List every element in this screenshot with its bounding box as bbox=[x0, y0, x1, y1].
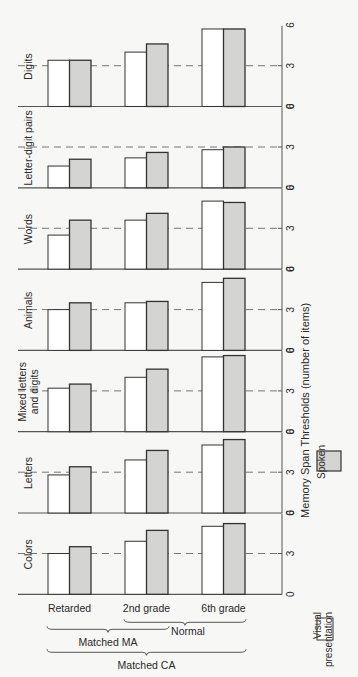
bar-spoken bbox=[70, 384, 92, 432]
bar-spoken bbox=[70, 547, 92, 595]
bar-visual bbox=[202, 445, 224, 513]
legend-label-visual: presentation bbox=[323, 612, 334, 667]
bar-visual bbox=[125, 52, 147, 106]
panel-label: Words bbox=[22, 214, 34, 244]
bar-spoken bbox=[224, 278, 246, 350]
bar-spoken bbox=[224, 524, 246, 595]
bar-visual bbox=[202, 357, 224, 432]
tick-label: 6 bbox=[285, 509, 296, 515]
bar-spoken bbox=[147, 44, 169, 107]
panel-digits: 036Digits bbox=[18, 22, 296, 110]
panel-mixed-letters-and-digits: 036Mixed lettersand digits bbox=[16, 347, 296, 435]
bar-spoken bbox=[70, 60, 92, 106]
tick-label: 6 bbox=[285, 428, 296, 434]
bar-spoken bbox=[70, 303, 92, 351]
bar-visual bbox=[48, 310, 70, 351]
tick-label: 3 bbox=[285, 62, 296, 68]
bar-visual bbox=[48, 166, 70, 188]
memory-span-chart: 036Digits036Letter-digit pairs036Words03… bbox=[0, 0, 358, 677]
bar-spoken bbox=[70, 159, 92, 188]
y-axis-label: Memory Span Thresholds (number of items) bbox=[299, 303, 311, 518]
bar-visual bbox=[202, 526, 224, 594]
panel-label: Colors bbox=[22, 539, 34, 569]
group-label: Normal bbox=[171, 625, 205, 637]
bar-spoken bbox=[224, 440, 246, 513]
bar-visual bbox=[48, 388, 70, 432]
panel-label: Animals bbox=[22, 292, 34, 329]
panel-label: Letter-digit pairs bbox=[22, 110, 34, 185]
panel-letters: 036Letters bbox=[18, 428, 296, 516]
tick-label: 3 bbox=[285, 469, 296, 475]
bracket-matched-ca bbox=[47, 649, 246, 655]
tick-label: 3 bbox=[285, 225, 296, 231]
tick-label: 6 bbox=[285, 22, 296, 28]
bar-visual bbox=[202, 29, 224, 107]
bar-spoken bbox=[147, 530, 169, 594]
tick-label: 6 bbox=[285, 184, 296, 190]
bar-spoken bbox=[147, 369, 169, 432]
bar-spoken bbox=[147, 213, 169, 269]
tick-label: 0 bbox=[285, 591, 296, 597]
panel-words: 036Words bbox=[18, 184, 296, 272]
bar-visual bbox=[202, 282, 224, 350]
panel-label: and digits bbox=[28, 369, 40, 414]
tick-label: 6 bbox=[285, 266, 296, 272]
panel-label: Digits bbox=[22, 53, 34, 79]
legend-label-spoken: Spoken bbox=[316, 445, 327, 479]
bar-spoken bbox=[224, 356, 246, 432]
category-label: 6th grade bbox=[201, 602, 246, 614]
panel-letter-digit-pairs: 036Letter-digit pairs bbox=[18, 103, 296, 191]
category-label: 2nd grade bbox=[123, 602, 170, 614]
tick-label: 3 bbox=[285, 388, 296, 394]
panel-animals: 036Animals bbox=[18, 266, 296, 354]
bar-spoken bbox=[224, 29, 246, 107]
bar-visual bbox=[202, 150, 224, 188]
bar-visual bbox=[48, 60, 70, 106]
tick-label: 3 bbox=[285, 306, 296, 312]
tick-label: 3 bbox=[285, 144, 296, 150]
bar-visual bbox=[48, 475, 70, 513]
bar-visual bbox=[125, 303, 147, 351]
panel-label: Letters bbox=[22, 457, 34, 489]
group-label: Matched MA bbox=[79, 636, 138, 648]
category-label: Retarded bbox=[48, 602, 91, 614]
bar-spoken bbox=[224, 202, 246, 269]
bar-visual bbox=[202, 201, 224, 269]
tick-label: 6 bbox=[285, 347, 296, 353]
bar-spoken bbox=[224, 147, 246, 188]
bar-spoken bbox=[147, 450, 169, 513]
bar-visual bbox=[125, 541, 147, 594]
bar-spoken bbox=[70, 467, 92, 513]
bar-visual bbox=[125, 460, 147, 513]
bar-visual bbox=[125, 220, 147, 269]
bar-visual bbox=[48, 554, 70, 595]
tick-label: 3 bbox=[285, 550, 296, 556]
legend-label-visual: Visual bbox=[312, 612, 323, 639]
tick-label: 6 bbox=[285, 103, 296, 109]
panel-colors: 036Colors bbox=[18, 509, 296, 597]
bar-spoken bbox=[70, 220, 92, 269]
bar-spoken bbox=[147, 152, 169, 187]
bar-spoken bbox=[147, 301, 169, 350]
group-label: Matched CA bbox=[118, 659, 176, 671]
panel-label: Mixed letters bbox=[16, 362, 28, 422]
bar-visual bbox=[48, 235, 70, 269]
bar-visual bbox=[125, 158, 147, 188]
bar-visual bbox=[125, 377, 147, 431]
bracket-matched-ma bbox=[47, 626, 169, 632]
